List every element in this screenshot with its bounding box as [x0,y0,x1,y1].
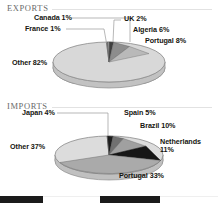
imports-label-portugal: Portugal 33% [119,172,164,180]
exports-panel: EXPORTS [0,0,218,98]
exports-label-france: France 1% [25,25,61,33]
imports-leader-japan [57,113,108,136]
bottom-bar-segment-1 [0,196,43,203]
bottom-bar-segment-2 [100,196,160,203]
exports-label-canada: Canada 1% [34,14,72,22]
exports-leader-france [66,29,107,43]
exports-label-algeria: Algeria 6% [133,26,169,34]
imports-label-other: Other 37% [10,143,45,151]
imports-panel: IMPORTS [0,98,218,188]
imports-label-netherlands: Netherlands 11% [160,138,206,155]
exports-label-uk: UK 2% [124,15,147,23]
imports-label-spain: Spain 5% [124,109,156,117]
exports-label-other: Other 82% [12,59,47,67]
imports-label-brazil: Brazil 10% [140,122,175,130]
bottom-bar [0,196,218,204]
exports-leader-uk [113,20,121,42]
imports-label-japan: Japan 4% [22,109,55,117]
exports-leader-canada [71,18,130,42]
exports-pie-chart [0,0,218,98]
exports-label-portugal: Portugal 8% [145,37,186,45]
